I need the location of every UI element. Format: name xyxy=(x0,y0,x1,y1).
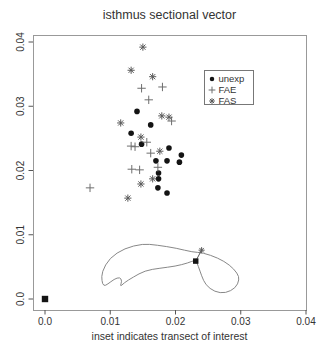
legend-label-FAE: FAE xyxy=(219,84,237,95)
scatter-series-FAS xyxy=(117,44,172,202)
svg-text:0.03: 0.03 xyxy=(15,96,26,116)
svg-text:0.02: 0.02 xyxy=(166,316,186,327)
plot-area: 0.00.010.020.030.040.00.010.020.030.04un… xyxy=(0,0,324,361)
x-axis-ticks: 0.00.010.020.030.04 xyxy=(38,310,316,327)
scatter-plot-figure: isthmus sectional vector 0.00.010.020.03… xyxy=(0,0,324,361)
svg-text:0.01: 0.01 xyxy=(15,225,26,245)
svg-text:0.03: 0.03 xyxy=(231,316,251,327)
legend-box: unexpFAEFAS xyxy=(205,71,254,107)
y-axis-ticks: 0.00.010.020.030.04 xyxy=(15,32,33,306)
inset-outline xyxy=(102,244,239,292)
svg-text:0.0: 0.0 xyxy=(38,316,52,327)
svg-text:0.04: 0.04 xyxy=(296,316,316,327)
origin-marker xyxy=(42,296,48,302)
scatter-series-unexp xyxy=(128,109,184,196)
x-axis-label: inset indicates transect of interest xyxy=(33,330,306,342)
plot-box xyxy=(34,36,307,311)
svg-text:0.0: 0.0 xyxy=(15,292,26,306)
legend-label-unexp: unexp xyxy=(219,73,245,84)
scatter-series-FAE xyxy=(86,83,176,192)
transect-markers xyxy=(193,247,205,264)
svg-text:0.02: 0.02 xyxy=(15,160,26,180)
legend-label-FAS: FAS xyxy=(219,95,237,106)
svg-text:0.01: 0.01 xyxy=(101,316,121,327)
svg-text:0.04: 0.04 xyxy=(15,32,26,52)
